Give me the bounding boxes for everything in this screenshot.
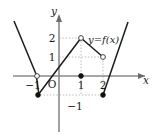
curve-segment-left-descending <box>14 21 36 74</box>
point-filled-neg1-neg1 <box>36 93 41 98</box>
plot-svg: x y O −1 1 2 1 2 −1 y=f(x) <box>0 0 165 140</box>
point-filled-2-neg1 <box>101 93 106 98</box>
x-tick-label-two: 2 <box>100 79 107 91</box>
x-tick-label-one: 1 <box>78 79 85 91</box>
x-tick-label-neg-one: −1 <box>25 79 40 91</box>
x-axis-label: x <box>143 74 149 86</box>
point-open-neg1-0 <box>35 74 40 79</box>
y-axis-label: y <box>50 5 58 17</box>
labels-group: x y O −1 1 2 1 2 −1 y=f(x) <box>25 5 149 112</box>
function-graph-figure: x y O −1 1 2 1 2 −1 y=f(x) <box>0 0 165 140</box>
curve-segment-right-rising <box>103 22 128 95</box>
point-open-1-2 <box>79 36 84 41</box>
point-open-2-1 <box>101 55 106 60</box>
y-tick-label-one: 1 <box>49 51 56 63</box>
origin-label: O <box>48 78 57 90</box>
y-tick-label-two: 2 <box>49 32 56 44</box>
y-tick-label-neg-one: −1 <box>67 100 82 112</box>
curve-label: y=f(x) <box>87 34 119 45</box>
point-filled-1-0 <box>79 74 84 79</box>
